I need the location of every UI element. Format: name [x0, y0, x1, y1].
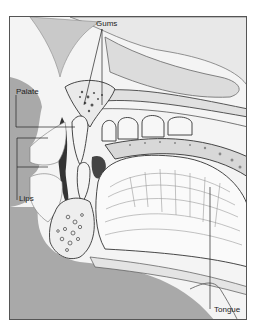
- upper-incisor: [72, 116, 88, 165]
- label-palate: Palate: [16, 88, 39, 96]
- label-lips: Lips: [19, 195, 34, 203]
- mouth-cross-section-illustration: [10, 17, 247, 320]
- upper-teeth: [102, 116, 192, 142]
- anatomy-figure: Gums Palate Lips Tongue: [9, 16, 247, 320]
- label-gums: Gums: [96, 20, 117, 28]
- upper-shadow: [30, 17, 100, 77]
- upper-gum-bone: [65, 80, 115, 127]
- label-tongue: Tongue: [214, 306, 240, 314]
- lower-incisor: [77, 162, 90, 203]
